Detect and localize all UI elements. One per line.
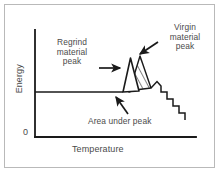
y-axis-label: Energy bbox=[15, 56, 25, 102]
regrind-peak-label-line3: peak bbox=[48, 57, 96, 67]
area-under-peak-label: Area under peak bbox=[88, 117, 151, 127]
virgin-arrow bbox=[140, 42, 158, 54]
virgin-peak-label: Virgin material peak bbox=[160, 23, 210, 52]
area-under-peak-arrow bbox=[116, 97, 128, 114]
regrind-peak-label: Regrind material peak bbox=[48, 38, 96, 67]
dsc-thermogram-figure: Regrind material peak Virgin material pe… bbox=[0, 0, 220, 173]
origin-label: 0 bbox=[23, 128, 28, 138]
virgin-peak-label-line3: peak bbox=[160, 42, 210, 52]
x-axis-label: Temperature bbox=[72, 145, 124, 155]
jagged-descent-tail bbox=[151, 82, 185, 121]
